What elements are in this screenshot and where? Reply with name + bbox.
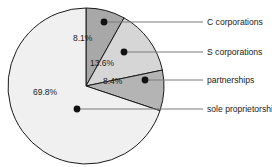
callout-dot <box>101 19 108 26</box>
slice-value-label: 8.1% <box>73 33 93 43</box>
callout-dot <box>142 77 149 84</box>
pie-slices-group <box>8 8 164 164</box>
callout-dot <box>74 106 81 113</box>
slice-value-label: 13.6% <box>90 58 115 68</box>
legend-label-sole-proprietorships[interactable]: sole proprietorships <box>207 105 272 114</box>
slice-value-label: 69.8% <box>33 87 58 97</box>
slice-value-label: 8.4% <box>103 76 123 86</box>
legend-label-c-corporations[interactable]: C corporations <box>207 18 263 27</box>
callout-dot <box>121 49 128 56</box>
legend-label-s-corporations[interactable]: S corporations <box>207 48 262 57</box>
pie-chart: 8.1%13.6%8.4%69.8% C corporationsS corpo… <box>0 0 272 167</box>
legend-label-partnerships[interactable]: partnerships <box>207 76 254 85</box>
